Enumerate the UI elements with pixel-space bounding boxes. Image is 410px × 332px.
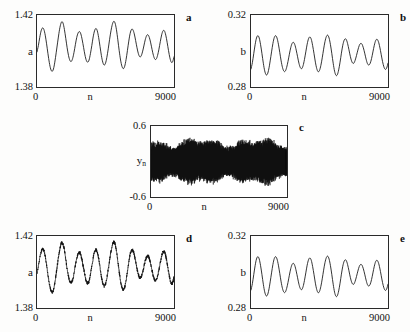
x-axis-label-d: n xyxy=(80,313,100,324)
y-tick-top-d: 1.42 xyxy=(0,231,33,242)
panel-letter-c: c xyxy=(299,122,304,133)
y-tick-top-a: 1.42 xyxy=(0,10,33,21)
plot-area-c xyxy=(150,125,288,198)
y-axis-label-c-subscript: n xyxy=(142,159,146,168)
plot-area-b xyxy=(250,14,389,88)
y-tick-bottom-b: 0.28 xyxy=(211,82,246,93)
x-axis-label-e: n xyxy=(294,313,314,324)
y-tick-bottom-c: -0.6 xyxy=(108,192,146,203)
y-tick-top-b: 0.32 xyxy=(211,10,246,21)
x-axis-label-a: n xyxy=(80,92,100,103)
panel-letter-a: a xyxy=(186,12,192,23)
y-axis-label-e: b xyxy=(211,267,246,278)
y-tick-bottom-a: 1.38 xyxy=(0,82,33,93)
y-tick-top-e: 0.32 xyxy=(211,231,246,242)
y-axis-label-b: b xyxy=(211,46,246,57)
x-tick-left-a: 0 xyxy=(33,92,38,103)
x-tick-left-c: 0 xyxy=(147,202,152,213)
x-axis-label-c: n xyxy=(194,202,214,213)
panel-letter-e: e xyxy=(400,233,405,244)
panel-letter-b: b xyxy=(400,12,406,23)
y-axis-label-d: a xyxy=(0,267,33,278)
figure-panel-grid: 1.42 1.38 a 0 9000 n a 0.32 0.28 b 0 900… xyxy=(0,0,410,332)
x-axis-label-b: n xyxy=(294,92,314,103)
y-axis-label-a: a xyxy=(0,46,33,57)
x-tick-left-d: 0 xyxy=(33,313,38,324)
x-tick-right-a: 9000 xyxy=(155,92,176,103)
plot-area-e xyxy=(250,235,389,309)
plot-area-a xyxy=(36,14,175,88)
x-tick-left-b: 0 xyxy=(247,92,252,103)
y-tick-bottom-d: 1.38 xyxy=(0,303,33,314)
x-tick-right-e: 9000 xyxy=(369,313,390,324)
y-axis-label-c: yn xyxy=(108,155,146,168)
plot-area-d xyxy=(36,235,175,309)
x-tick-right-b: 9000 xyxy=(369,92,390,103)
x-tick-right-c: 9000 xyxy=(268,202,289,213)
panel-letter-d: d xyxy=(186,233,192,244)
x-tick-left-e: 0 xyxy=(247,313,252,324)
y-tick-top-c: 0.6 xyxy=(110,121,146,132)
x-tick-right-d: 9000 xyxy=(155,313,176,324)
y-tick-bottom-e: 0.28 xyxy=(211,303,246,314)
